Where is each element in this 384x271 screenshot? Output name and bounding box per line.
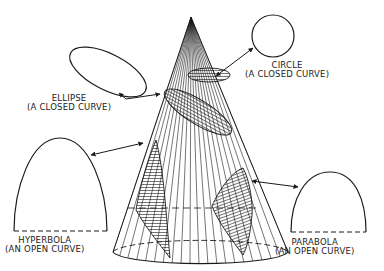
cone-base-front — [113, 252, 288, 264]
parabola-label-description: (AN OPEN CURVE) — [275, 247, 355, 256]
hyperbola-label-description: (AN OPEN CURVE) — [5, 245, 85, 254]
circle-label-description: (A CLOSED CURVE) — [245, 70, 329, 79]
ellipse-label: ELLIPSE (A CLOSED CURVE) — [27, 94, 111, 112]
circle-label: CIRCLE (A CLOSED CURVE) — [245, 61, 329, 79]
ellipse-label-description: (A CLOSED CURVE) — [27, 103, 111, 112]
circle-figure — [252, 15, 294, 57]
parabola-figure — [291, 172, 366, 232]
hyperbola-section — [130, 135, 175, 265]
conic-sections-diagram — [0, 0, 384, 271]
parabola-arrow — [252, 181, 298, 187]
parabola-label: PARABOLA (AN OPEN CURVE) — [275, 238, 355, 256]
cone-base-back-dashed — [113, 240, 288, 252]
hyperbola-arrow — [91, 143, 143, 155]
hyperbola-label: HYPERBOLA (AN OPEN CURVE) — [5, 236, 85, 254]
hyperbola-figure — [14, 138, 107, 231]
